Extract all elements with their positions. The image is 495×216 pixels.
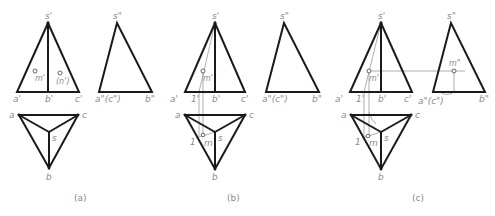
label-c: c	[82, 110, 87, 120]
label-a-prime: a'	[13, 94, 21, 104]
side-view-a: s" a"(c") b"	[95, 11, 155, 104]
label-1: 1	[355, 137, 361, 147]
label-m-prime: m'	[369, 74, 379, 83]
label-s-prime: s'	[45, 11, 52, 21]
label-b-prime: b'	[212, 94, 220, 104]
label-1-prime: 1'	[191, 94, 199, 104]
side-view-b: s" a"(c") b"	[262, 11, 322, 104]
label-c: c	[415, 110, 420, 120]
label-m: m	[204, 138, 213, 148]
label-a: a	[341, 110, 347, 120]
apex-dot	[213, 21, 216, 24]
label-1-prime: 1'	[356, 94, 364, 104]
label-b: b	[378, 172, 384, 182]
vertex-dot	[77, 114, 80, 117]
triangular-pyramid-projection-figure: s' m' (n') a' b' c' s" a"(c") b" a c s b	[0, 0, 495, 216]
label-1: 1	[190, 137, 196, 147]
side-outline	[266, 23, 319, 92]
vertex-dot	[410, 114, 413, 117]
front-view-a: s' m' (n') a' b' c'	[13, 11, 82, 104]
point-m-double-prime	[452, 69, 456, 73]
side-outline	[433, 23, 485, 92]
label-a-c-double-prime: a"(c")	[418, 96, 444, 106]
label-m-prime: m'	[35, 74, 45, 83]
point-m-prime	[201, 69, 205, 73]
label-s-double-prime: s"	[280, 11, 289, 21]
point-m-prime	[367, 69, 371, 73]
point-m-prime	[33, 69, 37, 73]
caption-b: (b)	[227, 193, 240, 203]
label-b-double-prime: b"	[479, 94, 489, 104]
panel-a: s' m' (n') a' b' c' s" a"(c") b" a c s b	[9, 11, 155, 203]
caption-c: (c)	[412, 193, 424, 203]
label-c: c	[249, 110, 254, 120]
front-view-c: s' m' a' 1' b' c'	[335, 11, 465, 138]
vertex-dot	[184, 114, 187, 117]
vertex-dot	[350, 114, 353, 117]
label-n-prime: (n')	[56, 77, 70, 86]
vertex-dot	[380, 168, 383, 171]
label-s: s	[52, 133, 57, 143]
label-m-prime: m'	[203, 74, 213, 83]
label-m-double-prime: m"	[449, 59, 460, 68]
transfer-arc	[369, 112, 376, 124]
label-a-prime: a'	[335, 94, 343, 104]
label-b-prime: b'	[378, 94, 386, 104]
label-c-prime: c'	[241, 94, 248, 104]
vertex-dot	[244, 114, 247, 117]
vertex-dot	[48, 167, 51, 170]
label-s-prime: s'	[378, 11, 385, 21]
label-s: s	[384, 133, 389, 143]
top-view-c: a c s 1 m b	[341, 110, 420, 182]
label-b-prime: b'	[45, 94, 53, 104]
label-s-double-prime: s"	[447, 11, 456, 21]
label-b: b	[212, 172, 218, 182]
label-a-c-double-prime: a"(c")	[95, 94, 121, 104]
vertex-dot	[214, 168, 217, 171]
label-c-prime: c'	[75, 94, 82, 104]
label-a: a	[9, 110, 15, 120]
label-s-double-prime: s"	[113, 11, 122, 21]
top-view-b: a c s 1 m b	[175, 110, 254, 182]
point-m	[201, 133, 205, 137]
apex-dot	[379, 21, 382, 24]
side-view-c: s" m" a"(c") b"	[418, 11, 489, 106]
label-a-prime: a'	[170, 94, 178, 104]
front-view-b: s' m' a' 1' b' c'	[170, 11, 248, 137]
label-s: s	[218, 133, 223, 143]
label-b-double-prime: b"	[312, 94, 322, 104]
top-view-a: a c s b	[9, 110, 87, 182]
vertex-dot	[18, 114, 21, 117]
label-a-c-double-prime: a"(c")	[262, 94, 288, 104]
panel-c: s' m' a' 1' b' c' s" m" a"(c") b"	[335, 11, 489, 203]
caption-a: (a)	[74, 193, 87, 203]
label-a: a	[175, 110, 181, 120]
apex-dot	[46, 21, 49, 24]
label-m: m	[369, 138, 378, 148]
label-c-prime: c'	[404, 94, 411, 104]
label-b: b	[46, 172, 52, 182]
panel-b: s' m' a' 1' b' c' s" a"(c") b" a c s 1	[170, 11, 322, 203]
label-b-double-prime: b"	[145, 94, 155, 104]
side-outline	[99, 23, 152, 92]
point-n-prime	[58, 71, 62, 75]
label-s-prime: s'	[212, 11, 219, 21]
